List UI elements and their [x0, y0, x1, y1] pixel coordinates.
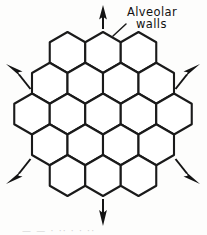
- force-arrow-up-right: [176, 64, 201, 89]
- honeycomb-row: [50, 32, 157, 73]
- force-arrow-down: [99, 199, 107, 226]
- force-arrow-down-left: [6, 159, 31, 184]
- honeycomb-lattice: [14, 32, 192, 196]
- alveolus-cell: [121, 155, 157, 196]
- force-arrow-down-right: [176, 159, 201, 184]
- force-arrow-up: [99, 5, 107, 29]
- force-arrow-up-left: [6, 64, 31, 89]
- alveolar-walls-label-line-2: walls: [136, 18, 167, 31]
- diagram-canvas: [0, 0, 207, 235]
- alveolus-cell: [85, 155, 121, 196]
- alveolar-walls-diagram: Alveolar walls — — · ·· · · ··: [0, 0, 207, 235]
- leader-line-to-alveolar-wall: [113, 24, 126, 36]
- alveolus-cell: [50, 155, 86, 196]
- cropped-caption-remnant: — — · ·· · · ··: [22, 226, 95, 233]
- honeycomb-row: [50, 155, 157, 196]
